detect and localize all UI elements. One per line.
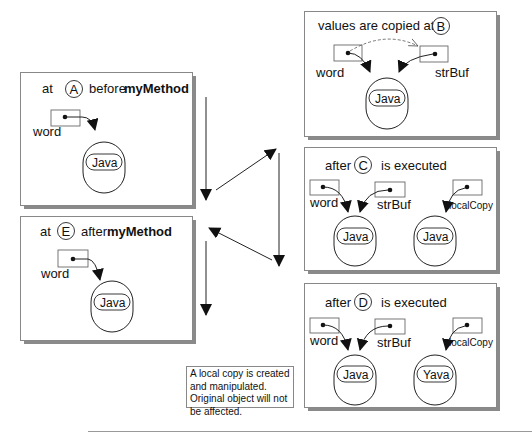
object-label: Java (343, 230, 369, 244)
ref-label-word: word (315, 65, 344, 80)
ref-label-localcopy: localCopy (449, 200, 493, 211)
object-label: Java (423, 230, 449, 244)
panel-d-suffix: is executed (381, 295, 447, 310)
ref-label-word: word (309, 195, 338, 210)
panel-a: at A before myMethod word Java (21, 73, 197, 210)
panel-e-method: myMethod (107, 224, 172, 239)
arrow-to-e (209, 228, 272, 260)
panel-b-marker: B (437, 19, 446, 34)
panel-c-marker: C (359, 158, 368, 173)
panel-c-prefix: after (325, 158, 352, 173)
panel-c-suffix: is executed (381, 158, 447, 173)
panel-a-suffix: before (89, 81, 126, 96)
panel-c: after C is executed word strBuf localCop… (305, 148, 501, 275)
panel-d: after D is executed word strBuf localCop… (305, 284, 501, 412)
panel-b: values are copied at B word strBuf Java (305, 12, 501, 141)
ref-label-strbuf: strBuf (377, 335, 411, 350)
panel-e: at E after myMethod word Java (21, 217, 197, 345)
panel-e-marker: E (62, 224, 71, 239)
ref-label-strbuf: strBuf (435, 65, 469, 80)
ref-label-word: word (40, 266, 69, 281)
ref-label-word: word (309, 333, 338, 348)
object-label: Yava (423, 368, 450, 382)
panel-a-prefix: at (42, 81, 53, 96)
panel-d-marker: D (359, 295, 368, 310)
object-label: Java (343, 368, 369, 382)
panel-a-marker: A (70, 82, 79, 97)
ref-label-localcopy: localCopy (449, 337, 493, 348)
explanation-note: A local copy is created and manipulated.… (186, 366, 294, 408)
object-label: Java (100, 296, 126, 310)
ref-label-strbuf: strBuf (377, 197, 411, 212)
panel-a-method: myMethod (124, 81, 189, 96)
panel-e-prefix: at (40, 224, 51, 239)
flow-arrows (206, 97, 279, 315)
object-label: Java (92, 156, 118, 170)
panel-e-suffix: after (81, 224, 108, 239)
panel-b-prefix: values are copied at (318, 18, 435, 33)
ref-label-word: word (32, 124, 61, 139)
divider-line (88, 431, 532, 432)
object-label: Java (375, 92, 401, 106)
arrow-to-b (216, 149, 276, 190)
panel-d-prefix: after (325, 295, 352, 310)
